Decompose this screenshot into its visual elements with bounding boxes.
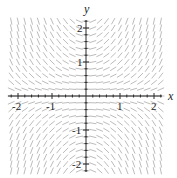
slope-segment	[24, 168, 26, 174]
slope-segment	[70, 26, 75, 30]
slope-segment	[132, 32, 134, 38]
slope-segment	[103, 82, 109, 84]
slope-segment	[37, 168, 39, 174]
slope-segment	[160, 147, 162, 153]
slope-segment	[131, 108, 137, 111]
slope-segment	[97, 155, 102, 159]
slope-segment	[119, 161, 122, 167]
slope-segment	[132, 39, 135, 45]
slope-segment	[104, 39, 109, 43]
slope-segment	[37, 147, 40, 153]
slope-segment	[124, 115, 129, 119]
slope-segment	[10, 141, 12, 147]
slope-segment	[111, 135, 116, 139]
slope-segment	[64, 168, 68, 173]
slope-segment	[17, 18, 18, 24]
slope-segment	[111, 155, 115, 160]
slope-segment	[153, 52, 155, 58]
slope-segment	[10, 154, 12, 160]
slope-segment	[36, 121, 40, 126]
slope-segment	[110, 102, 116, 103]
slope-segment	[36, 74, 41, 78]
slope-segment	[96, 89, 102, 90]
slope-segment	[119, 25, 122, 31]
slope-segment	[90, 48, 96, 50]
slope-segment	[97, 149, 102, 152]
slope-segment	[97, 142, 103, 145]
x-tick-label: -1	[46, 100, 55, 112]
slope-segment	[37, 39, 40, 45]
slope-segment	[49, 115, 54, 118]
slope-segment	[50, 121, 55, 125]
slope-segment	[44, 18, 46, 24]
slope-segment	[64, 26, 68, 31]
slope-segment	[76, 136, 82, 138]
slope-segment	[43, 128, 47, 133]
slope-segment	[50, 32, 53, 38]
slope-segment	[140, 18, 142, 24]
slope-segment	[17, 25, 19, 31]
slope-segment	[63, 128, 68, 131]
slope-segment	[153, 25, 155, 31]
slope-segment	[139, 147, 141, 153]
slope-segment	[51, 168, 54, 174]
slope-segment	[23, 59, 26, 65]
slope-segment	[159, 66, 162, 72]
slope-segment	[56, 102, 62, 103]
slope-segment	[57, 141, 61, 146]
slope-segment	[69, 82, 75, 83]
slope-segment	[50, 134, 54, 139]
slope-segment	[103, 115, 109, 117]
slope-segment	[17, 147, 19, 153]
slope-segment	[160, 39, 162, 45]
slope-segment	[36, 114, 41, 118]
slope-segment	[70, 47, 76, 50]
slope-segment	[139, 134, 142, 140]
slope-segment	[37, 46, 40, 52]
slope-segment	[125, 46, 128, 52]
slope-segment	[63, 53, 68, 57]
slope-segment	[56, 135, 61, 139]
slope-segment	[31, 32, 33, 38]
slope-segment	[17, 45, 19, 51]
slope-segment	[137, 88, 143, 90]
slope-segment	[138, 81, 143, 84]
slope-segment	[124, 108, 130, 111]
slope-segment	[146, 32, 148, 38]
slope-segment	[153, 59, 156, 65]
slope-segment	[90, 20, 96, 23]
slope-segment	[57, 32, 61, 37]
slope-segment	[139, 39, 141, 45]
slope-segment	[125, 154, 128, 160]
slope-segment	[9, 80, 14, 84]
slope-segment	[63, 60, 68, 63]
slope-segment	[76, 34, 82, 36]
slope-segment	[145, 108, 150, 112]
slope-segment	[56, 109, 62, 111]
slope-segment	[124, 74, 129, 78]
slope-segment	[104, 53, 109, 57]
slope-segment	[119, 168, 122, 174]
slope-segment	[50, 39, 53, 44]
slope-segment	[151, 88, 157, 90]
slope-segment	[56, 121, 61, 124]
slope-segment	[64, 162, 68, 167]
slope-segment	[51, 18, 54, 24]
slope-segment	[118, 46, 122, 51]
slope-segment	[10, 32, 12, 38]
slope-segment	[126, 161, 128, 167]
slope-segment	[31, 154, 33, 160]
slope-segment	[153, 39, 155, 45]
slope-segment	[104, 46, 109, 50]
slope-segment	[44, 25, 46, 31]
slope-segment	[37, 127, 41, 132]
slope-segment	[63, 148, 68, 152]
slope-segment	[16, 120, 19, 125]
slope-segment	[96, 75, 102, 77]
slope-segment	[30, 52, 33, 58]
slope-segment	[63, 39, 68, 43]
slope-segment	[96, 109, 102, 110]
slope-segment	[159, 59, 162, 65]
slope-segment	[103, 75, 109, 77]
slope-segment	[104, 19, 108, 24]
